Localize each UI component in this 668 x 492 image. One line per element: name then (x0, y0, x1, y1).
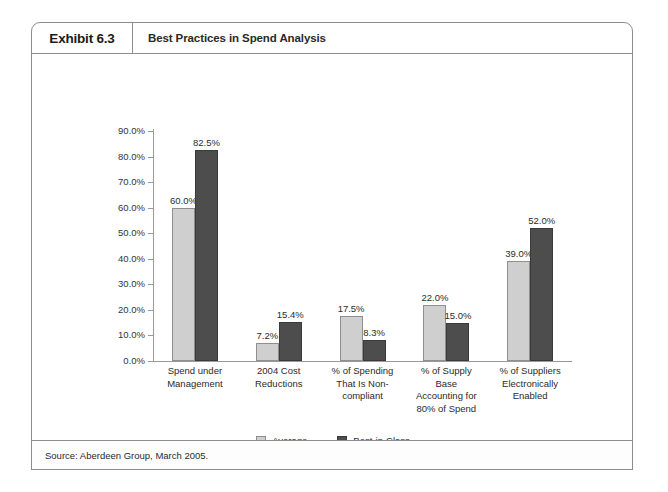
y-axis-tick-label: 20.0% (97, 304, 145, 315)
bar-group: 17.5%8.3% (321, 54, 405, 361)
bar-best-in-class: 8.3% (363, 340, 386, 361)
x-axis-category-label: 2004 CostReductions (237, 365, 321, 390)
category-line: Base (404, 378, 488, 391)
bar-best-in-class: 15.0% (446, 323, 469, 361)
x-axis-category-label: % of SupplyBaseAccounting for80% of Spen… (404, 365, 488, 415)
x-axis-line (153, 361, 572, 362)
bar-average: 60.0% (172, 208, 195, 361)
exhibit-header: Exhibit 6.3 Best Practices in Spend Anal… (32, 23, 632, 54)
category-line: % of Supply (404, 365, 488, 378)
bar-average: 22.0% (423, 305, 446, 361)
category-line: Spend under (153, 365, 237, 378)
y-axis-tick-label: 40.0% (97, 253, 145, 264)
x-axis-category-labels: Spend underManagement2004 CostReductions… (153, 365, 572, 445)
y-axis-tick-label: 60.0% (97, 202, 145, 213)
bar-value-label: 17.5% (338, 303, 365, 314)
category-line: Enabled (488, 390, 572, 403)
category-line: compliant (321, 390, 405, 403)
y-axis-tick-label: 90.0% (97, 125, 145, 136)
bar-group: 39.0%52.0% (488, 54, 572, 361)
bar-value-label: 7.2% (256, 330, 278, 341)
category-line: % of Spending (321, 365, 405, 378)
y-axis-tick (148, 361, 154, 362)
category-line: 2004 Cost (237, 365, 321, 378)
source-box: Source: Aberdeen Group, March 2005. (31, 440, 633, 470)
bar-best-in-class: 52.0% (530, 228, 553, 361)
bar-average: 17.5% (340, 316, 363, 361)
y-axis-tick-label: 30.0% (97, 278, 145, 289)
bar-group: 60.0%82.5% (153, 54, 237, 361)
category-line: 80% of Spend (404, 403, 488, 416)
y-axis-tick-label: 80.0% (97, 151, 145, 162)
category-line: Accounting for (404, 390, 488, 403)
bar-group: 7.2%15.4% (237, 54, 321, 361)
exhibit-number-label: Exhibit 6.3 (32, 23, 133, 53)
bar-value-label: 52.0% (528, 215, 555, 226)
y-axis-tick-label: 0.0% (97, 355, 145, 366)
chart-body: 90.0%80.0%70.0%60.0%50.0%40.0%30.0%20.0%… (32, 54, 632, 469)
y-axis-tick-label: 10.0% (97, 329, 145, 340)
x-axis-category-label: % of SpendingThat Is Non-compliant (321, 365, 405, 403)
bar-value-label: 39.0% (505, 248, 532, 259)
y-axis-tick-label: 70.0% (97, 176, 145, 187)
category-line: Electronically (488, 378, 572, 391)
bar-value-label: 15.0% (444, 310, 471, 321)
category-line: % of Suppliers (488, 365, 572, 378)
bar-average: 39.0% (507, 261, 530, 361)
category-line: Management (153, 378, 237, 391)
bar-best-in-class: 15.4% (279, 322, 302, 361)
x-axis-category-label: % of SuppliersElectronicallyEnabled (488, 365, 572, 403)
x-axis-category-label: Spend underManagement (153, 365, 237, 390)
bar-chart-plot: 90.0%80.0%70.0%60.0%50.0%40.0%30.0%20.0%… (32, 54, 634, 471)
category-line: That Is Non- (321, 378, 405, 391)
bar-value-label: 60.0% (170, 195, 197, 206)
bar-group: 22.0%15.0% (404, 54, 488, 361)
bar-value-label: 15.4% (277, 309, 304, 320)
bar-value-label: 8.3% (363, 327, 385, 338)
exhibit-frame: Exhibit 6.3 Best Practices in Spend Anal… (31, 22, 633, 470)
bar-value-label: 22.0% (421, 292, 448, 303)
bar-best-in-class: 82.5% (195, 150, 218, 361)
y-axis-tick-label: 50.0% (97, 227, 145, 238)
category-line: Reductions (237, 378, 321, 391)
exhibit-title: Best Practices in Spend Analysis (133, 23, 632, 53)
bar-groups: 60.0%82.5%7.2%15.4%17.5%8.3%22.0%15.0%39… (153, 54, 572, 361)
bar-average: 7.2% (256, 343, 279, 361)
bar-value-label: 82.5% (193, 137, 220, 148)
source-text: Source: Aberdeen Group, March 2005. (45, 450, 208, 461)
